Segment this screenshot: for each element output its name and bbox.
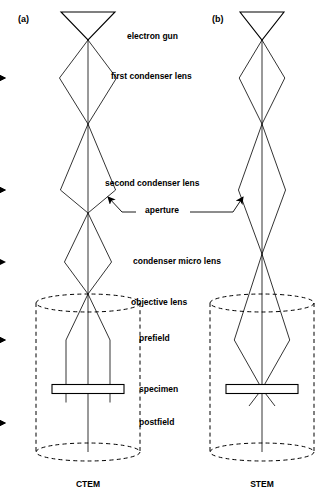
label-condenser-micro-lens: condenser micro lens (133, 256, 221, 266)
panel-tag: (a) (18, 14, 29, 24)
label-aperture: aperture (145, 205, 179, 215)
label-objective-lens: objective lens (131, 297, 187, 307)
tem-stem-column-diagram: (a)CTEM(b)STEM electron gunfirst condens… (0, 0, 325, 496)
label-electron-gun: electron gun (127, 31, 178, 41)
panel-tag: (b) (212, 14, 224, 24)
label-first-condenser-lens: first condenser lens (111, 71, 192, 81)
label-prefield: prefield (139, 333, 170, 343)
mode-label-ctem: CTEM (76, 479, 100, 489)
mode-label-stem: STEM (250, 479, 274, 489)
specimen-slab (52, 385, 124, 394)
label-specimen: specimen (139, 384, 178, 394)
specimen-slab (226, 385, 298, 394)
label-second-condenser-lens: second condenser lens (105, 178, 200, 188)
label-postfield: postfield (139, 417, 174, 427)
